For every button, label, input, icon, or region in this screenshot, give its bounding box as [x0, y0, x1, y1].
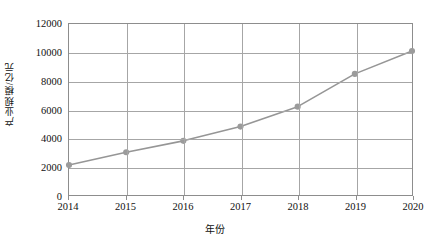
- x-axis-tick-label: 2019: [345, 201, 366, 212]
- x-axis-tick-mark: [413, 196, 414, 200]
- gridline-horizontal: [69, 111, 412, 112]
- gridline-vertical: [184, 24, 185, 195]
- plot-area: [68, 23, 413, 196]
- x-axis-tick-label: 2016: [173, 201, 194, 212]
- gridline-vertical: [242, 24, 243, 195]
- x-axis-tick-mark: [356, 196, 357, 200]
- y-axis-tick-label: 0: [57, 191, 62, 202]
- y-axis-tick-label: 8000: [41, 75, 62, 86]
- x-axis-title: 年份: [0, 221, 430, 236]
- x-axis-tick-mark: [68, 196, 69, 200]
- x-axis-tick-label: 2018: [288, 201, 309, 212]
- gridline-vertical: [357, 24, 358, 195]
- y-axis-title: 产业规模/亿元: [6, 62, 22, 126]
- x-axis-tick-label: 2014: [58, 201, 79, 212]
- y-axis-tick-label: 6000: [41, 104, 62, 115]
- y-axis-tick-label: 10000: [36, 46, 62, 57]
- data-point-marker: [237, 124, 243, 130]
- x-axis-tick-label: 2017: [230, 201, 251, 212]
- gridline-horizontal: [69, 139, 412, 140]
- x-axis-tick-mark: [298, 196, 299, 200]
- x-axis-tick-mark: [126, 196, 127, 200]
- x-axis-tick-label: 2015: [115, 201, 136, 212]
- series-line-產業規模: [69, 24, 412, 195]
- y-axis-tick-label: 12000: [36, 18, 62, 29]
- gridline-horizontal: [69, 53, 412, 54]
- gridline-horizontal: [69, 82, 412, 83]
- y-axis-tick-label: 4000: [41, 133, 62, 144]
- data-line: [69, 51, 412, 165]
- x-axis-tick-mark: [241, 196, 242, 200]
- x-axis-tick-mark: [183, 196, 184, 200]
- x-axis-tick-label: 2020: [403, 201, 424, 212]
- line-chart-figure: 产业规模/亿元 020004000600080001000012000 2014…: [0, 0, 430, 252]
- gridline-vertical: [299, 24, 300, 195]
- y-axis-tick-label: 2000: [41, 162, 62, 173]
- gridline-horizontal: [69, 168, 412, 169]
- gridline-vertical: [127, 24, 128, 195]
- y-axis-tick-labels: 020004000600080001000012000: [22, 0, 66, 252]
